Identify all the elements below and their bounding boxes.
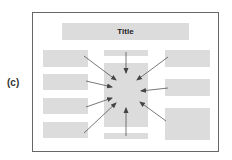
title-text: Title: [117, 27, 133, 36]
title-box: Title: [62, 23, 189, 40]
left-box-1: [43, 50, 88, 67]
right-box-2: [165, 79, 210, 96]
center-top-strip: [104, 50, 148, 56]
right-box-1: [165, 50, 210, 67]
left-box-2: [43, 74, 88, 90]
figure-label: (c): [7, 77, 19, 88]
right-box-3: [165, 108, 210, 140]
center-box: [104, 63, 148, 127]
center-bottom-strip: [104, 133, 148, 139]
left-box-4: [43, 122, 88, 138]
left-box-3: [43, 98, 88, 114]
